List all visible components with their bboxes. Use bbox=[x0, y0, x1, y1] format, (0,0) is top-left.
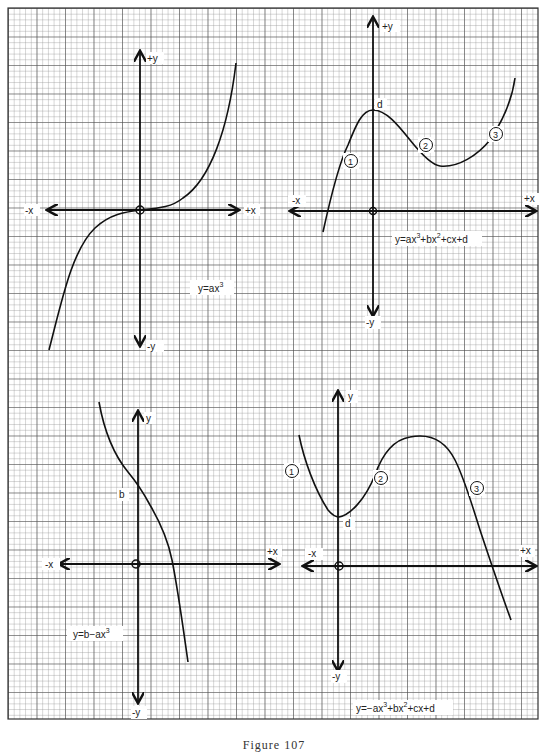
label-neg-x: -x bbox=[292, 195, 300, 206]
label-neg-y: -y bbox=[147, 341, 155, 352]
graph-paper-figure: -x +x +y -y y=ax3 -x +x +y -y d 1 bbox=[0, 0, 548, 752]
svg-text:1: 1 bbox=[348, 157, 353, 167]
marker-1: 1 bbox=[343, 153, 359, 169]
svg-text:2: 2 bbox=[423, 141, 428, 151]
marker-3: 3 bbox=[469, 480, 485, 496]
equation-label: y=−ax3+bx2+cx+d bbox=[356, 701, 435, 714]
svg-text:1: 1 bbox=[289, 467, 294, 477]
label-pos-y: +y bbox=[382, 21, 393, 32]
label-neg-y: -y bbox=[132, 707, 140, 718]
graph-paper-grid bbox=[8, 8, 538, 719]
label-pos-x: +x bbox=[520, 545, 531, 556]
label-pos-y: y bbox=[146, 413, 151, 424]
label-pos-y: y bbox=[348, 391, 353, 402]
label-neg-y: -y bbox=[366, 317, 374, 328]
equation-label: y=ax3+bx2+cx+d bbox=[395, 232, 468, 245]
marker-2: 2 bbox=[373, 470, 389, 486]
label-b: b bbox=[119, 489, 125, 500]
label-d: d bbox=[345, 518, 351, 529]
marker-1: 1 bbox=[284, 463, 300, 479]
figure-caption: Figure 107 bbox=[0, 738, 548, 752]
svg-text:3: 3 bbox=[493, 130, 498, 140]
label-neg-x: -x bbox=[45, 559, 53, 570]
svg-text:2: 2 bbox=[378, 474, 383, 484]
label-pos-x: +x bbox=[267, 546, 278, 557]
marker-3: 3 bbox=[488, 126, 504, 142]
svg-text:3: 3 bbox=[474, 484, 479, 494]
label-pos-x: +x bbox=[524, 193, 535, 204]
label-pos-x: +x bbox=[245, 205, 256, 216]
label-pos-y: +y bbox=[147, 53, 158, 64]
label-neg-y: -y bbox=[332, 671, 340, 682]
label-d: d bbox=[377, 99, 383, 110]
label-neg-x: -x bbox=[25, 205, 33, 216]
label-neg-x: -x bbox=[308, 548, 316, 559]
equation-label: y=b−ax3 bbox=[73, 627, 110, 640]
marker-2: 2 bbox=[418, 137, 434, 153]
